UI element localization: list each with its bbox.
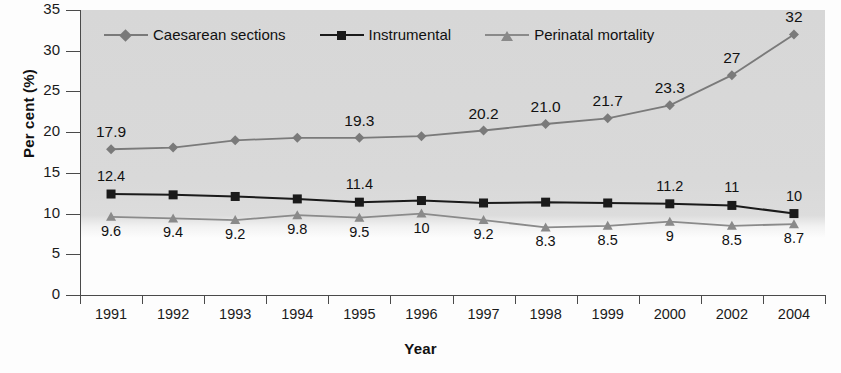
- data-label: 21.0: [519, 98, 573, 116]
- data-label: 8.3: [519, 233, 573, 249]
- data-point: [727, 201, 736, 210]
- data-label: 9.6: [84, 223, 138, 239]
- legend-item-instrumental[interactable]: Instrumental: [320, 26, 452, 43]
- data-label: 17.9: [84, 123, 138, 141]
- legend-label: Instrumental: [369, 26, 452, 43]
- legend-marker-triangle: [501, 31, 513, 41]
- data-label: 20.2: [457, 105, 511, 123]
- data-label: 11: [705, 179, 759, 195]
- data-label: 27: [705, 49, 759, 67]
- data-label: 11.2: [643, 178, 697, 194]
- data-label: 11.4: [332, 176, 386, 192]
- data-label: 10: [394, 220, 448, 236]
- legend-label: Perinatal mortality: [534, 26, 654, 43]
- data-label: 19.3: [332, 112, 386, 130]
- data-point: [479, 198, 488, 207]
- data-label: 10: [767, 188, 821, 204]
- data-point: [416, 131, 426, 141]
- data-point: [292, 133, 302, 143]
- legend-item-caesarean-sections[interactable]: Caesarean sections: [104, 26, 286, 43]
- data-point: [665, 100, 675, 110]
- data-point: [541, 198, 550, 207]
- data-point: [541, 119, 551, 129]
- legend-swatch: [104, 28, 148, 42]
- series-line-instrumental: [111, 194, 794, 214]
- data-point: [106, 144, 116, 154]
- data-label: 9.4: [146, 224, 200, 240]
- data-point: [479, 126, 489, 136]
- legend-swatch: [485, 28, 529, 42]
- legend-label: Caesarean sections: [153, 26, 286, 43]
- data-point: [169, 190, 178, 199]
- legend: Caesarean sectionsInstrumentalPerinatal …: [104, 26, 654, 43]
- data-point: [355, 198, 364, 207]
- legend-swatch: [320, 28, 364, 42]
- data-point: [293, 194, 302, 203]
- data-point: [230, 135, 240, 145]
- data-point: [107, 190, 116, 199]
- data-label: 23.3: [643, 79, 697, 97]
- data-label: 8.5: [581, 232, 635, 248]
- data-point: [603, 113, 613, 123]
- data-point: [789, 29, 799, 39]
- data-point: [727, 70, 737, 80]
- legend-marker-diamond: [119, 29, 132, 42]
- data-point: [354, 133, 364, 143]
- data-label: 9.2: [208, 226, 262, 242]
- data-label: 9.8: [270, 221, 324, 237]
- data-point: [665, 199, 674, 208]
- line-chart: Per cent (%) Year 05101520253035 1991199…: [0, 0, 841, 373]
- data-point: [603, 198, 612, 207]
- legend-marker-square: [337, 31, 346, 40]
- data-point: [168, 143, 178, 153]
- data-point: [231, 192, 240, 201]
- data-label: 8.5: [705, 232, 759, 248]
- data-label: 9: [643, 228, 697, 244]
- data-label: 9.2: [457, 226, 511, 242]
- legend-item-perinatal-mortality[interactable]: Perinatal mortality: [485, 26, 654, 43]
- data-label: 9.5: [332, 224, 386, 240]
- data-label: 21.7: [581, 92, 635, 110]
- data-label: 8.7: [767, 230, 821, 246]
- data-label: 12.4: [84, 168, 138, 184]
- data-point: [789, 209, 798, 218]
- data-label: 32: [767, 8, 821, 26]
- data-point: [417, 196, 426, 205]
